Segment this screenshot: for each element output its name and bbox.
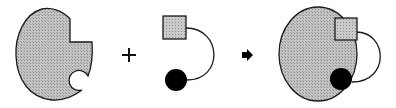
ligand-circle-group bbox=[165, 69, 187, 91]
reaction-arrow-icon bbox=[242, 49, 253, 61]
receptor-body bbox=[16, 8, 92, 100]
binding-diagram bbox=[0, 0, 396, 108]
complex-square-group bbox=[335, 18, 357, 40]
receptor bbox=[16, 8, 92, 100]
ligand bbox=[163, 16, 214, 91]
ligand-square-group bbox=[163, 16, 186, 39]
receptor-ligand-complex bbox=[279, 7, 380, 101]
complex-circle-group bbox=[330, 68, 352, 90]
ligand-linker bbox=[186, 28, 214, 80]
plus-icon bbox=[122, 48, 136, 62]
